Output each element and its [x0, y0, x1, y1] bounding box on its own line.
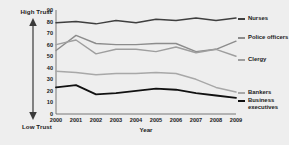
- legend-swatch: [238, 92, 245, 94]
- y-tick-label: 20: [47, 88, 53, 94]
- legend-item-label: Business executives: [248, 97, 289, 111]
- x-tick-label: 2001: [70, 117, 82, 123]
- y-tick-label: 70: [47, 30, 53, 36]
- legend-item-label: Nurses: [248, 15, 289, 22]
- legend-item-label: Police officers: [248, 34, 289, 41]
- y-tick-label: 80: [47, 19, 53, 25]
- y-tick-label: 40: [47, 65, 53, 71]
- legend-swatch: [238, 100, 245, 102]
- legend-item-label: Clergy: [248, 56, 289, 63]
- legend-swatch: [238, 18, 245, 20]
- legend-swatch: [238, 59, 245, 61]
- x-tick-label: 2005: [150, 117, 162, 123]
- x-axis-label: Year: [56, 126, 236, 133]
- series-line: [56, 35, 236, 51]
- y-tick-label: 10: [47, 99, 53, 105]
- low-trust-label: Low Trust: [0, 123, 52, 130]
- x-tick-label: 2007: [190, 117, 202, 123]
- x-tick-label: 2008: [210, 117, 222, 123]
- legend-item-label: Bankers: [248, 89, 289, 96]
- chart-container: High Trust Low Trust 0102030405060708090…: [0, 0, 289, 145]
- trust-axis-annotation: High Trust Low Trust: [0, 8, 52, 130]
- x-tick-label: 2000: [50, 117, 62, 123]
- series-line: [56, 18, 236, 24]
- x-tick-label: 2004: [130, 117, 142, 123]
- high-trust-label: High Trust: [0, 8, 52, 15]
- x-tick-label: 2006: [170, 117, 182, 123]
- x-tick-label: 2003: [110, 117, 122, 123]
- series-line: [56, 85, 236, 98]
- plot-area: 0102030405060708090 20002001200220032004…: [56, 10, 236, 114]
- y-tick-label: 90: [47, 7, 53, 13]
- series-line: [56, 40, 236, 56]
- chart-series-lines: [56, 10, 236, 114]
- trust-double-arrow-icon: [28, 18, 38, 120]
- y-tick-label: 60: [47, 42, 53, 48]
- y-tick-label: 30: [47, 76, 53, 82]
- y-tick-label: 50: [47, 53, 53, 59]
- legend-swatch: [238, 37, 245, 39]
- x-tick-label: 2002: [90, 117, 102, 123]
- chart-legend: NursesPolice officersClergyBankersBusine…: [238, 10, 289, 126]
